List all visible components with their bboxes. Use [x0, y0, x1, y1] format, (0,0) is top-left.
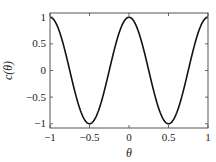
plot-frame: [50, 13, 208, 128]
cosine-line-chart: −1−0.500.51 10.50−0.5−1 θ c(θ): [0, 0, 216, 162]
x-tick-label: 1: [205, 131, 211, 143]
x-tick-label: −0.5: [80, 131, 100, 143]
y-tick-label: −1: [34, 117, 46, 129]
cosine-curve: [50, 17, 208, 123]
x-tick-label: 0: [126, 131, 132, 143]
y-tick-label: −0.5: [26, 91, 46, 103]
y-tick-label: 1: [41, 11, 47, 23]
x-axis-label: θ: [126, 146, 132, 160]
y-tick-label: 0.5: [32, 37, 46, 49]
data-series: [50, 17, 208, 123]
y-axis-ticks: 10.50−0.5−1: [26, 11, 208, 129]
x-tick-label: −1: [44, 131, 56, 143]
x-tick-label: 0.5: [162, 131, 176, 143]
y-tick-label: 0: [41, 64, 47, 76]
y-axis-label: c(θ): [1, 61, 15, 80]
